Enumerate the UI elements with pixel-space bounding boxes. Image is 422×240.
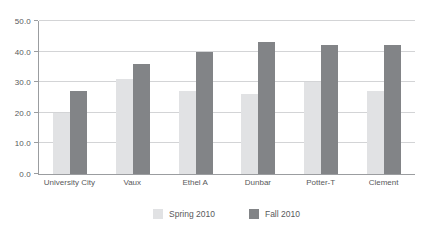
legend-swatch-spring-2010 [153,209,163,219]
bar-spring-2010-university-city [53,113,70,174]
category-label-dunbar: Dunbar [226,178,289,188]
bar-group-potter-t [290,21,353,174]
y-tick-label: 20.0 [15,108,31,117]
bar-spring-2010-dunbar [241,94,258,174]
category-label-potter-t: Potter-T [289,178,352,188]
y-tick-label: 10.0 [15,139,31,148]
legend-item-fall: Fall 2010 [249,209,300,219]
y-tick-label: 40.0 [15,47,31,56]
bar-fall-2010-ethel-a [196,52,213,174]
bar-spring-2010-clement [367,91,384,174]
bar-fall-2010-potter-t [321,45,338,174]
y-tick-label: 30.0 [15,78,31,87]
y-axis-tick [34,20,38,21]
category-labels: University CityVauxEthel ADunbarPotter-T… [38,178,415,188]
bar-spring-2010-ethel-a [179,91,196,174]
bar-spring-2010-potter-t [304,82,321,174]
bar-fall-2010-clement [384,45,401,174]
legend-label-spring-2010: Spring 2010 [169,209,215,219]
bar-fall-2010-dunbar [258,42,275,174]
category-label-university-city: University City [38,178,101,188]
bar-group-university-city [39,21,102,174]
legend-swatch-fall-2010 [249,209,259,219]
y-tick-label: 50.0 [15,17,31,26]
legend: Spring 2010 Fall 2010 [38,207,415,221]
y-tick-label: 0.0 [19,170,31,179]
y-axis-tick [34,51,38,52]
y-axis-tick [34,81,38,82]
legend-label-fall-2010: Fall 2010 [265,209,300,219]
bar-groups [39,21,415,174]
bar-spring-2010-vaux [116,79,133,174]
category-label-clement: Clement [352,178,415,188]
bar-group-clement [352,21,415,174]
bar-chart: 0.010.020.030.040.050.0 University CityV… [0,0,422,240]
legend-item-spring: Spring 2010 [153,209,215,219]
bar-group-vaux [102,21,165,174]
category-label-ethel-a: Ethel A [164,178,227,188]
bar-group-ethel-a [164,21,227,174]
plot-area [38,21,415,175]
y-axis-tick [34,142,38,143]
y-axis: 0.010.020.030.040.050.0 [0,21,31,174]
bar-group-dunbar [227,21,290,174]
bar-fall-2010-university-city [70,91,87,174]
bar-fall-2010-vaux [133,64,150,174]
y-axis-tick [34,112,38,113]
y-axis-tick [34,173,38,174]
category-label-vaux: Vaux [101,178,164,188]
